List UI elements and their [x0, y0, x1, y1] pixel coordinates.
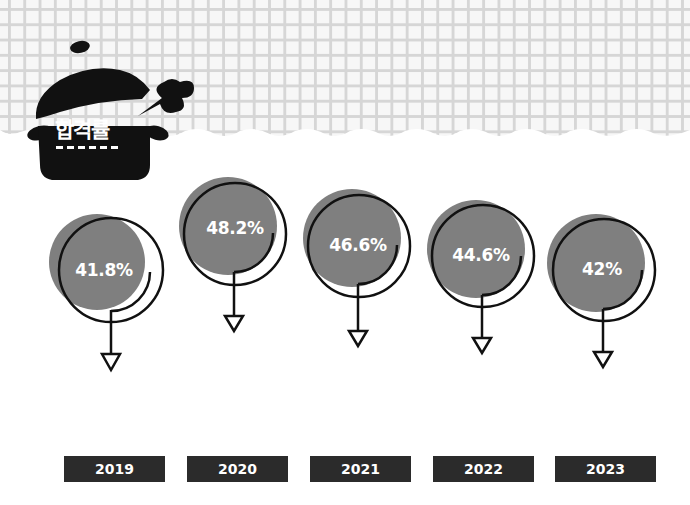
- arrow-down-icon: [349, 331, 367, 346]
- data-marker-2022: [427, 200, 534, 353]
- data-marker-2023: [547, 214, 655, 367]
- data-marker-2021: [303, 189, 410, 346]
- data-marker-2020: [179, 177, 286, 331]
- chart-title: 합격률: [34, 113, 130, 143]
- arrow-down-icon: [225, 316, 243, 331]
- value-label-2020: 48.2%: [185, 218, 285, 238]
- year-label-2022: 2022: [433, 456, 534, 482]
- title-underline-dashes: [56, 146, 122, 149]
- arrow-down-icon: [102, 354, 120, 370]
- arrow-down-icon: [473, 338, 491, 353]
- value-label-2021: 46.6%: [308, 235, 408, 255]
- value-label-2023: 42%: [552, 259, 652, 279]
- arrow-down-icon: [594, 352, 612, 367]
- year-label-2021: 2021: [310, 456, 411, 482]
- data-marker-2019: [49, 214, 163, 370]
- year-label-2023: 2023: [555, 456, 656, 482]
- year-label-2020: 2020: [187, 456, 288, 482]
- year-label-2019: 2019: [64, 456, 165, 482]
- cooking-pot-icon: [26, 39, 194, 180]
- value-label-2019: 41.8%: [54, 260, 154, 280]
- value-label-2022: 44.6%: [431, 245, 531, 265]
